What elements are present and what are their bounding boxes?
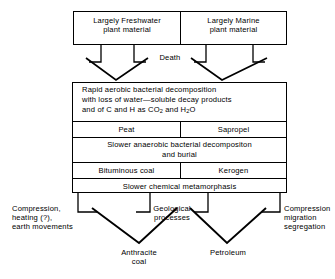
arrow-marine-left-stem	[194, 45, 206, 62]
source-label-freshwater: Largely Freshwater plant material	[74, 16, 180, 34]
process-label-compression-migration: Compression migration segregation	[284, 204, 335, 232]
arrow-freshwater-right-stem	[134, 45, 146, 62]
stack-anaerobic-line1: Slower anaerobic bacterial decompositon	[73, 140, 286, 149]
source-label-marine: Largely Marine plant material	[181, 16, 286, 34]
decomposition-text-a: and of C and H as CO	[82, 105, 160, 114]
stack-decomposition-line3: and of C and H as CO2 and H2O	[82, 105, 282, 116]
output-label-anthracite-coal: Anthracite coal	[108, 248, 170, 266]
arrowhead-death-left	[86, 58, 148, 80]
stack-decomposition-line2: with loss of water—soluble decay product…	[82, 95, 282, 104]
stack-cell-peat: Peat	[73, 125, 180, 134]
transition-label-death: Death	[150, 53, 190, 62]
process-label-compression-heating: Compression, heating (?), earth movement…	[12, 204, 97, 232]
arrowhead-death-right	[191, 58, 267, 80]
stack-metamorphasis: Slower chemical metamorphasis	[73, 182, 286, 191]
process-label-geological: Geological processes	[139, 204, 205, 222]
stack-decomposition-line1: Rapid aerobic bacterial decomposition	[82, 85, 282, 94]
arrow-freshwater-left-stem	[89, 45, 101, 62]
stack-cell-kerogen: Kerogen	[181, 166, 286, 175]
decomposition-text-b: and H	[163, 105, 186, 114]
stack-cell-sapropel: Sapropel	[181, 125, 286, 134]
flow-diagram: Largely Freshwater plant material Largel…	[0, 0, 335, 279]
stack-anaerobic-line2: and burial	[73, 150, 286, 159]
decomposition-text-c: O	[190, 105, 196, 114]
output-label-petroleum: Petroleum	[197, 248, 259, 257]
stack-cell-bituminous-coal: Bituminous coal	[73, 166, 180, 175]
